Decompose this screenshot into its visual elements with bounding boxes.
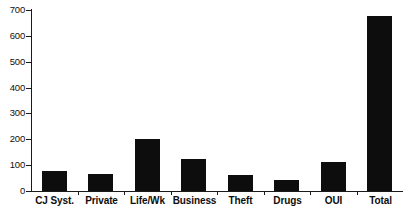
x-axis-category-label: CJ Syst.: [31, 195, 78, 207]
bar: [42, 171, 67, 191]
y-axis-tick: [26, 191, 31, 192]
y-axis-tick-label: 400: [0, 83, 25, 92]
y-axis-tick-label: 500: [0, 57, 25, 66]
bar: [88, 174, 113, 191]
y-axis-tick-label: 100: [0, 160, 25, 169]
y-axis-tick-label: 700: [0, 5, 25, 14]
x-axis-category-label: Private: [78, 195, 125, 207]
y-axis-tick: [26, 10, 31, 11]
y-axis-tick: [26, 139, 31, 140]
bar: [274, 180, 299, 191]
y-axis-tick: [26, 36, 31, 37]
y-axis-tick: [26, 62, 31, 63]
y-axis-tick-label: 300: [0, 108, 25, 117]
bar: [367, 16, 392, 191]
x-axis-category-label: Drugs: [264, 195, 311, 207]
y-axis-tick: [26, 88, 31, 89]
bar: [181, 159, 206, 191]
x-axis-category-label: Theft: [217, 195, 264, 207]
x-axis-category-label: Business: [171, 195, 218, 207]
y-axis-tick-label: 600: [0, 31, 25, 40]
bar: [321, 162, 346, 191]
y-axis-line: [31, 9, 32, 192]
bar: [228, 175, 253, 191]
y-axis-tick-label: 0: [0, 186, 25, 195]
bar-chart: 0100200300400500600700 CJ Syst.PrivateLi…: [0, 0, 405, 210]
y-axis-tick-label: 200: [0, 134, 25, 143]
bar: [135, 139, 160, 191]
x-axis-category-label: Life/Wk: [124, 195, 171, 207]
y-axis-tick: [26, 113, 31, 114]
x-axis-category-label: OUI: [310, 195, 357, 207]
x-axis-category-label: Total: [357, 195, 404, 207]
y-axis-tick: [26, 165, 31, 166]
